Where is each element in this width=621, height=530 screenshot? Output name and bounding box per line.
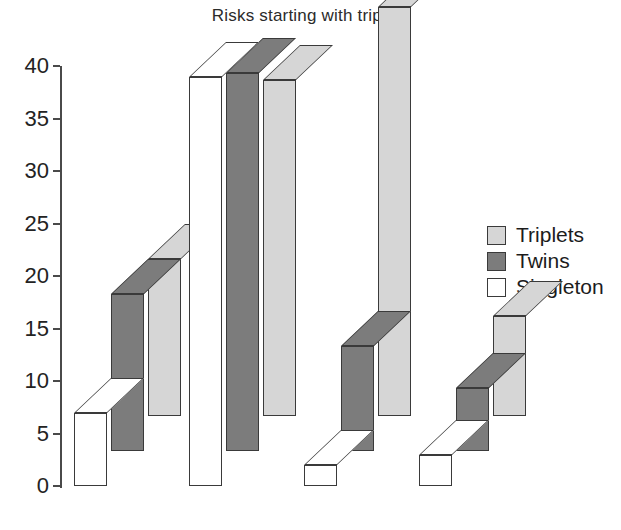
bar-front-face	[263, 80, 296, 416]
bar-front-face	[111, 294, 144, 452]
bar-front-face	[304, 465, 337, 486]
bar-front-face	[378, 7, 411, 417]
legend-swatch-triplets	[487, 226, 506, 245]
legend-swatch-singleton	[487, 278, 506, 297]
chart-title: Risks starting with triplets	[0, 6, 621, 26]
y-tick	[53, 223, 60, 225]
bar-front-face	[419, 455, 452, 487]
bar-singleton-miscarriage	[74, 413, 107, 487]
y-tick	[53, 118, 60, 120]
bar-front-face	[226, 73, 259, 451]
y-tick-label: 30	[25, 158, 49, 184]
y-tick	[53, 433, 60, 435]
y-axis-line	[60, 66, 62, 488]
y-tick-label: 0	[37, 473, 49, 499]
bar-triplets--1500grams	[378, 7, 411, 417]
y-tick-label: 5	[37, 421, 49, 447]
bar-triplets-ga-at-del	[263, 80, 296, 416]
legend-item-triplets[interactable]: Triplets	[487, 222, 604, 248]
legend-swatch-twins	[487, 252, 506, 271]
y-tick-label: 15	[25, 316, 49, 342]
y-tick	[53, 170, 60, 172]
bar-twins-ga-at-del	[226, 73, 259, 451]
y-tick-label: 35	[25, 106, 49, 132]
y-tick	[53, 65, 60, 67]
bar-singleton--1500grams	[304, 465, 337, 486]
y-tick	[53, 275, 60, 277]
y-tick	[53, 485, 60, 487]
y-tick	[53, 380, 60, 382]
y-tick	[53, 328, 60, 330]
legend-item-twins[interactable]: Twins	[487, 248, 604, 274]
chart-root: Risks starting with triplets 05101520253…	[0, 0, 621, 530]
legend-label: Triplets	[516, 223, 584, 247]
legend-label: Twins	[516, 249, 570, 273]
bar-singleton-inf-mortality	[419, 455, 452, 487]
y-tick-label: 20	[25, 263, 49, 289]
y-tick-label: 40	[25, 53, 49, 79]
bar-singleton-ga-at-del	[189, 77, 222, 487]
bar-front-face	[74, 413, 107, 487]
y-tick-label: 25	[25, 211, 49, 237]
bar-twins-miscarriage	[111, 294, 144, 452]
y-tick-label: 10	[25, 368, 49, 394]
x-axis-origin	[60, 486, 62, 488]
bar-front-face	[189, 77, 222, 487]
